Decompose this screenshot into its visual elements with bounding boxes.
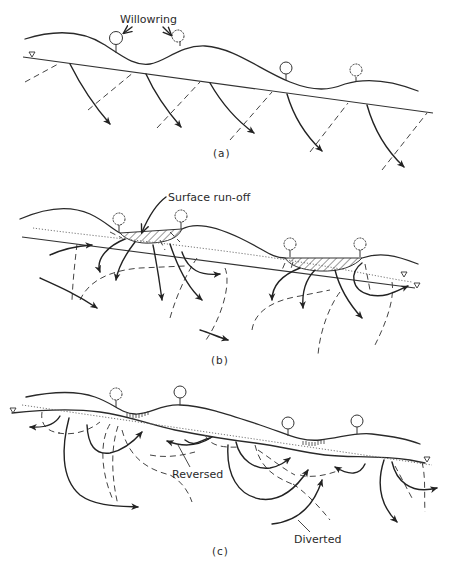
equipotential-line	[170, 258, 197, 318]
equipotential-line	[252, 290, 330, 330]
equipotential-line	[230, 92, 272, 140]
flow-arrow	[354, 263, 408, 296]
equipotential-line	[382, 113, 427, 170]
flow-arrow	[287, 94, 322, 151]
tree-icon	[350, 64, 362, 82]
water-table-line	[33, 228, 412, 282]
equipotential-line	[375, 282, 393, 345]
label-surface-runoff: Surface run-off	[168, 191, 251, 204]
equipotential-line	[80, 266, 185, 300]
panel-a: Willowring (a)	[23, 13, 433, 170]
water-table-line	[23, 57, 433, 113]
equipotential-line	[258, 450, 295, 475]
water-table-triangle-icon	[424, 457, 430, 462]
equipotential-line	[25, 63, 60, 82]
flow-arrow reversed-flow-arrow	[167, 437, 212, 445]
flow-arrow	[64, 418, 138, 507]
groundwater-flow-diagram: Willowring (a)	[0, 0, 449, 563]
label-reversed: Reversed	[172, 468, 223, 481]
water-table-triangle-icon	[401, 272, 407, 277]
equipotential-line	[103, 424, 113, 500]
flow-arrow	[116, 242, 135, 280]
flow-arrow	[70, 64, 110, 124]
equipotential-line	[422, 462, 425, 512]
equipotential-line	[318, 292, 340, 355]
flow-arrow	[210, 83, 254, 133]
equipotential-line	[58, 422, 100, 434]
tree-icon	[284, 238, 296, 257]
panel-label-c: (c)	[212, 545, 229, 557]
flow-arrow	[367, 105, 404, 167]
equipotential-line	[72, 244, 77, 300]
equipotential-line	[42, 412, 60, 433]
ground-surface	[25, 33, 418, 91]
flow-arrow	[146, 74, 181, 127]
tree-icon	[174, 386, 186, 405]
equipotential-line	[150, 452, 195, 456]
leader-arrow	[163, 27, 171, 35]
tree-icon	[175, 210, 187, 229]
tree-icon	[354, 238, 366, 257]
equipotential-line	[206, 268, 227, 340]
flow-arrow	[99, 239, 125, 272]
water-table-triangle-icon	[29, 52, 35, 57]
flow-arrow	[182, 252, 220, 274]
equipotential-line	[113, 426, 118, 505]
panel-b: Surface run-off (b)	[20, 191, 420, 366]
panel-c: Reversed Diverted (c)	[10, 386, 437, 557]
flow-arrow	[50, 245, 92, 255]
ground-surface	[20, 209, 418, 264]
panel-label-b: (b)	[211, 354, 229, 366]
flow-arrow	[30, 416, 60, 427]
tree-icon	[351, 415, 363, 434]
panel-label-a: (a)	[213, 147, 231, 159]
leader-line	[298, 520, 310, 532]
equipotential-line	[365, 264, 370, 290]
surface-runoff-hatched-area	[120, 229, 182, 243]
flow-arrow	[40, 278, 97, 308]
label-willowring: Willowring	[120, 13, 177, 26]
leader-arrow	[124, 27, 132, 33]
tree-icon	[280, 62, 292, 80]
flow-arrow	[303, 270, 315, 308]
equipotential-line	[255, 445, 292, 484]
flow-arrow	[200, 330, 228, 340]
water-table-line	[12, 410, 425, 463]
leader-line	[178, 445, 190, 467]
flow-arrow	[335, 464, 365, 473]
tree-icon	[172, 30, 184, 46]
leader-arrow	[142, 197, 166, 232]
label-diverted: Diverted	[294, 533, 341, 546]
flow-arrow	[392, 462, 437, 490]
water-table-triangle-icon	[414, 283, 420, 288]
flow-arrow	[153, 245, 162, 300]
